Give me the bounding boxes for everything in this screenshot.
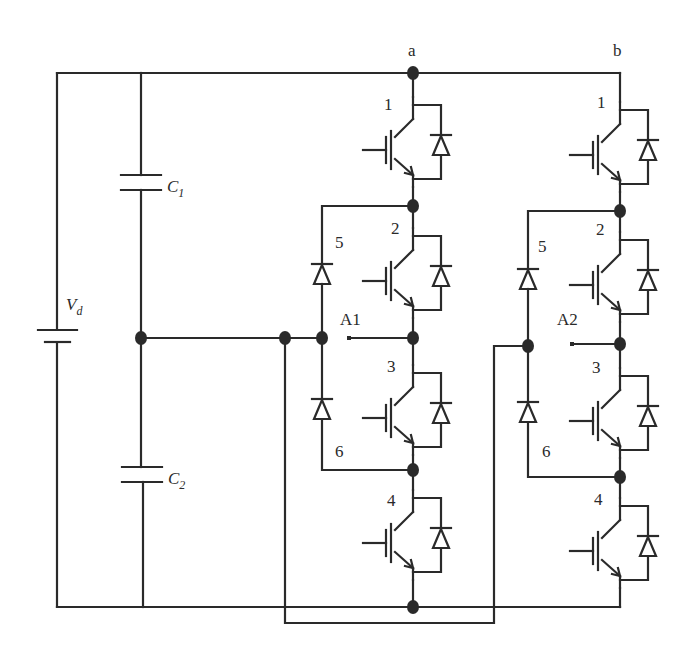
leg-a-label: a [408, 41, 416, 60]
c2-label: C2 [168, 469, 185, 492]
leg-a-diode-5-label: 5 [335, 233, 344, 252]
leg-a-nodes [135, 66, 419, 614]
leg-a-switch-3-label: 3 [387, 357, 396, 376]
capacitor-c1 [121, 73, 161, 338]
dc-source [38, 73, 77, 607]
leg-a-diode-6-label: 6 [335, 442, 344, 461]
source-label: Vd [66, 295, 83, 318]
output-a1-label: A1 [340, 310, 361, 329]
leg-b-switch-4-label: 4 [594, 490, 603, 509]
leg-b [518, 73, 658, 607]
capacitor-c2 [122, 338, 162, 607]
leg-a-switch-2-label: 2 [391, 219, 400, 238]
leg-a-switch-1-label: 1 [384, 95, 393, 114]
leg-b-label: b [613, 41, 622, 60]
leg-a [312, 73, 451, 607]
leg-b-switch-3-label: 3 [592, 358, 601, 377]
leg-b-diode-6-label: 6 [542, 442, 551, 461]
c1-label: C1 [167, 177, 184, 200]
leg-b-diode-5-label: 5 [538, 237, 547, 256]
leg-b-switch-2-label: 2 [596, 220, 605, 239]
leg-b-switch-1-label: 1 [597, 93, 606, 112]
output-a2-label: A2 [557, 310, 578, 329]
npc-inverter-diagram: Vd C1 C2 [0, 0, 695, 647]
leg-a-switch-4-label: 4 [387, 491, 396, 510]
